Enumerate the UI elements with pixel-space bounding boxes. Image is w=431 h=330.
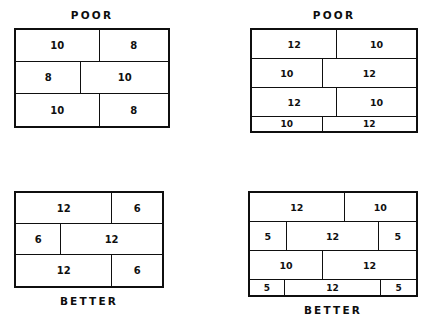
brick-cell: 12	[61, 224, 162, 254]
figure-top-right-caption: POOR	[250, 8, 418, 22]
brick-cell: 8	[100, 30, 168, 61]
brick-cell: 10	[81, 62, 168, 93]
table-row: 10 12	[252, 117, 416, 131]
brick-cell: 10	[337, 88, 416, 116]
table-row: 8 10	[16, 62, 168, 94]
brick-cell: 10	[252, 117, 323, 131]
brick-cell: 10	[250, 251, 323, 279]
brick-cell: 6	[112, 193, 162, 223]
brick-cell: 12	[323, 59, 416, 87]
brick-cell: 10	[345, 193, 416, 221]
table-row: 5 12 5	[250, 222, 416, 251]
brick-cell: 6	[112, 255, 162, 286]
brick-cell: 12	[16, 255, 112, 286]
brick-cell: 12	[252, 88, 337, 116]
figure-bottom-left: 12 6 6 12 12 6 BETTER	[14, 191, 164, 308]
figure-bottom-left-grid: 12 6 6 12 12 6	[14, 191, 164, 288]
figure-top-left-caption: POOR	[14, 8, 170, 22]
figure-bottom-left-caption: BETTER	[14, 294, 164, 308]
table-row: 10 8	[16, 94, 168, 126]
figure-sheet: POOR 10 8 8 10 10 8 POOR 12 10 10	[0, 0, 431, 330]
table-row: 12 10	[250, 193, 416, 222]
table-row: 6 12	[16, 224, 162, 255]
brick-cell: 12	[285, 280, 381, 295]
brick-cell: 5	[381, 280, 416, 295]
brick-cell: 8	[100, 94, 168, 126]
brick-cell: 12	[323, 117, 416, 131]
table-row: 12 10	[252, 30, 416, 59]
brick-cell: 6	[16, 224, 61, 254]
brick-cell: 5	[250, 222, 287, 250]
brick-cell: 12	[323, 251, 416, 279]
figure-bottom-right-caption: BETTER	[248, 303, 418, 317]
table-row: 10 8	[16, 30, 168, 62]
figure-top-left: POOR 10 8 8 10 10 8	[14, 8, 170, 128]
brick-cell: 5	[250, 280, 285, 295]
figure-top-left-grid: 10 8 8 10 10 8	[14, 28, 170, 128]
figure-top-right: POOR 12 10 10 12 12 10 10 12	[250, 8, 418, 133]
table-row: 10 12	[252, 59, 416, 88]
table-row: 12 10	[252, 88, 416, 117]
brick-cell: 10	[252, 59, 323, 87]
brick-cell: 12	[252, 30, 337, 58]
brick-cell: 8	[16, 62, 81, 93]
table-row: 10 12	[250, 251, 416, 280]
figure-bottom-right-grid: 12 10 5 12 5 10 12 5 12 5	[248, 191, 418, 297]
table-row: 5 12 5	[250, 280, 416, 295]
brick-cell: 12	[287, 222, 380, 250]
brick-cell: 10	[16, 94, 100, 126]
figure-top-right-grid: 12 10 10 12 12 10 10 12	[250, 28, 418, 133]
brick-cell: 12	[250, 193, 345, 221]
figure-bottom-right: 12 10 5 12 5 10 12 5 12 5 BETTER	[248, 191, 418, 317]
table-row: 12 6	[16, 193, 162, 224]
table-row: 12 6	[16, 255, 162, 286]
brick-cell: 10	[16, 30, 100, 61]
brick-cell: 10	[337, 30, 416, 58]
brick-cell: 12	[16, 193, 112, 223]
brick-cell: 5	[379, 222, 416, 250]
